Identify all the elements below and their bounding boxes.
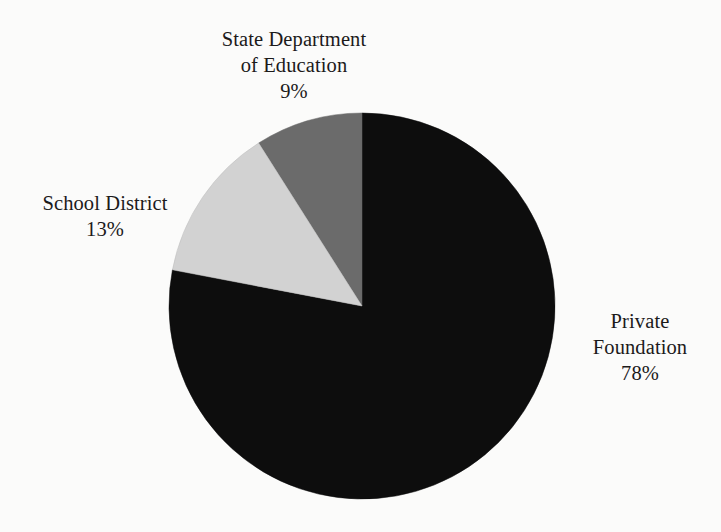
pie-label-state-value: 9% bbox=[169, 78, 419, 104]
pie-label-private-value: 78% bbox=[560, 360, 720, 386]
pie-label-state-name-line2: of Education bbox=[169, 52, 419, 78]
pie-label-school-district: School District 13% bbox=[10, 190, 200, 242]
pie-label-private-name-line2: Foundation bbox=[560, 334, 720, 360]
pie-label-school-name: School District bbox=[10, 190, 200, 216]
pie-label-private-foundation: Private Foundation 78% bbox=[560, 308, 720, 387]
pie-chart-figure: State Department of Education 9% School … bbox=[0, 0, 721, 532]
pie-label-state-department-of-education: State Department of Education 9% bbox=[169, 26, 419, 105]
pie-label-state-name-line1: State Department bbox=[169, 26, 419, 52]
pie-label-school-value: 13% bbox=[10, 216, 200, 242]
pie-label-private-name-line1: Private bbox=[560, 308, 720, 334]
